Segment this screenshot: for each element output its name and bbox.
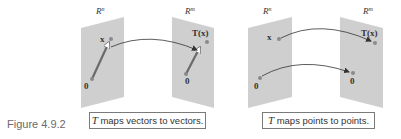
vectors-diagram: Rn Rm x 0 T(x) 0 bbox=[81, 6, 214, 108]
point-x bbox=[109, 37, 113, 41]
points-diagram: Rn Rm x 0 T(x) 0 bbox=[248, 6, 383, 108]
codomain-label-rm: Rm bbox=[184, 6, 196, 16]
label-origin-left: 0 bbox=[84, 81, 89, 91]
origin-point-left bbox=[90, 77, 94, 81]
label-x: x bbox=[267, 32, 272, 42]
label-Tx: T(x) bbox=[361, 28, 378, 38]
domain-plane-rn bbox=[248, 17, 292, 108]
caption-points: T maps points to points. bbox=[262, 112, 375, 129]
label-origin-right: 0 bbox=[350, 76, 355, 86]
caption-vectors: T maps vectors to vectors. bbox=[89, 112, 206, 129]
label-x: x bbox=[100, 34, 105, 44]
point-x bbox=[277, 37, 281, 41]
domain-label-rn: Rn bbox=[262, 6, 272, 16]
figure-label: Figure 4.9.2 bbox=[7, 118, 66, 130]
point-Tx bbox=[373, 41, 377, 45]
origin-point-right bbox=[351, 71, 355, 75]
origin-point-left bbox=[258, 76, 262, 80]
label-origin-left: 0 bbox=[254, 81, 259, 91]
codomain-label-rm: Rm bbox=[362, 6, 374, 16]
domain-label-rn: Rn bbox=[95, 6, 105, 16]
point-Tx bbox=[205, 40, 209, 44]
domain-plane-rn bbox=[81, 17, 124, 108]
label-origin-right: 0 bbox=[185, 76, 190, 86]
label-Tx: T(x) bbox=[192, 28, 209, 38]
caption-text: maps vectors to vectors. bbox=[98, 115, 204, 126]
caption-text: maps points to points. bbox=[274, 115, 369, 126]
